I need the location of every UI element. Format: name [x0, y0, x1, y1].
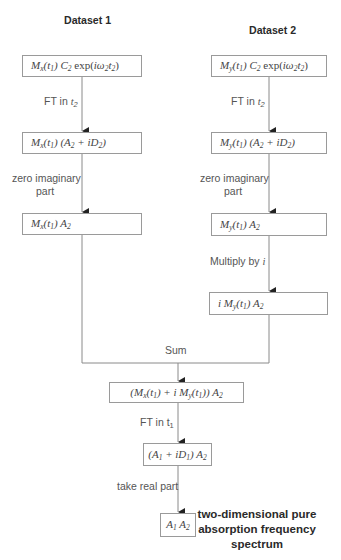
box-final-spectrum: A1 A2 A1 A2: [160, 513, 196, 537]
right-box-signal: My(t1) C2 exp(iω2t2) My(t1) C2 exp(iω2t2…: [211, 55, 327, 77]
right-box-ft-result: My(t1) (A2 + iD2) My(t1) (A2 + iD2): [211, 132, 327, 154]
connector-lines: [0, 0, 341, 560]
box-sum: (Mx(t1) + i My(t1)) A2 (Mx(t1) + i My(t1…: [109, 382, 244, 403]
right-step-multiply-i: Multiply by i Multiply by i: [210, 255, 265, 268]
left-step-zero-imaginary: zero imaginarypart zero imaginary part: [12, 172, 78, 198]
right-step-ft-t2: FT in t2 FT in t2: [231, 95, 265, 111]
left-box-real: Mx(t1) A2 Mx(t1) A2: [22, 213, 142, 235]
left-box-signal: Mx(t1) C2 exp(iω2t2) Mx(t1) C2 exp(iω2t2…: [22, 55, 142, 77]
left-box-signal-text: Mx(t1) C2 exp(iω2t2): [31, 59, 119, 73]
dataset2-heading: Dataset 2: [249, 24, 296, 36]
left-box-ft-result: Mx(t1) (A2 + iD2) Mx(t1) (A2 + iD2): [22, 132, 142, 154]
dataset1-heading: Dataset 1: [64, 14, 111, 26]
left-step-ft-t2: FT in t2 FT in t2: [44, 95, 78, 111]
final-spectrum-label: two-dimensional pure absorption frequenc…: [192, 507, 322, 552]
step-ft-t1: FT in t1 FT in t1: [140, 416, 174, 432]
sum-label: Sum: [165, 344, 187, 357]
right-step-zero-imaginary: zero imaginarypart zero imaginary part: [200, 172, 266, 198]
right-box-real: My(t1) A2 My(t1) A2: [211, 213, 327, 236]
right-box-multiplied: i My(t1) A2 i My(t1) A2: [209, 292, 328, 315]
step-take-real: take real part: [117, 480, 178, 493]
nmr-processing-flowchart: Dataset 1 Dataset 2 Mx(t1) C2 exp(iω2t2)…: [0, 0, 341, 560]
box-ft-t1-result: (A1 + iD1) A2 (A1 + iD1) A2: [143, 443, 212, 466]
